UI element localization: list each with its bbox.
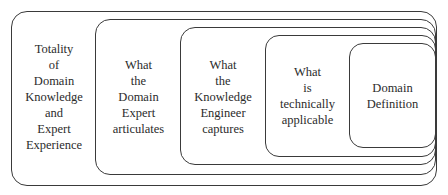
label-line: Totality	[12, 41, 96, 57]
label-domain-definition: Domain Definition	[350, 80, 435, 112]
label-totality: Totality of Domain Knowledge and Expert …	[12, 41, 96, 153]
label-line: Domain	[12, 73, 96, 89]
label-line: Engineer	[180, 105, 266, 121]
label-line: articulates	[96, 121, 181, 137]
label-line: the	[180, 73, 266, 89]
label-line: Knowledge	[12, 89, 96, 105]
label-line: captures	[180, 121, 266, 137]
label-line: What	[180, 57, 266, 73]
label-line: Expert	[12, 121, 96, 137]
label-line: What	[96, 57, 181, 73]
label-line: Definition	[350, 96, 435, 112]
label-line: Experience	[12, 137, 96, 153]
label-line: Domain	[96, 89, 181, 105]
label-line: of	[12, 57, 96, 73]
label-line: Expert	[96, 105, 181, 121]
label-line: technically	[265, 96, 350, 112]
label-engineer-captures: What the Knowledge Engineer captures	[180, 57, 266, 137]
label-technically-applicable: What is technically applicable	[265, 64, 350, 128]
label-line: What	[265, 64, 350, 80]
label-line: is	[265, 80, 350, 96]
label-line: and	[12, 105, 96, 121]
label-expert-articulates: What the Domain Expert articulates	[96, 57, 181, 137]
label-line: the	[96, 73, 181, 89]
label-line: Domain	[350, 80, 435, 96]
label-line: Knowledge	[180, 89, 266, 105]
label-line: applicable	[265, 112, 350, 128]
